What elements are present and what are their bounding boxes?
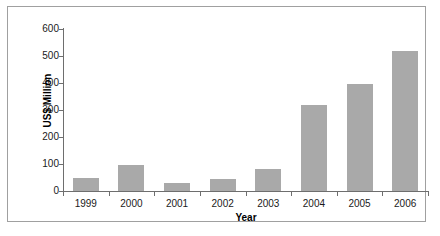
x-axis-title: Year (63, 212, 429, 223)
bar[interactable] (210, 179, 236, 191)
y-axis-tick-label: 0 (53, 185, 59, 196)
x-axis-tick-label: 1999 (63, 198, 109, 210)
bar[interactable] (118, 165, 144, 191)
bar[interactable] (73, 178, 99, 192)
x-axis-tick (200, 192, 201, 196)
x-axis-tick-label: 2002 (200, 198, 246, 210)
x-axis-tick-label: 2003 (246, 198, 292, 210)
x-axis-tick (246, 192, 247, 196)
y-axis-tick-label: 600 (42, 23, 59, 34)
x-axis-tick-label: 2006 (382, 198, 428, 210)
chart-figure: 6005004003002001000 19992000200120022003… (0, 0, 440, 236)
x-axis-tick (337, 192, 338, 196)
bar[interactable] (301, 105, 327, 191)
bar[interactable] (392, 51, 418, 191)
bar[interactable] (164, 183, 190, 191)
x-axis-tick-label: 2004 (291, 198, 337, 210)
x-axis-tick-label: 2001 (154, 198, 200, 210)
y-axis-title: US$ Million (42, 56, 53, 146)
x-axis-tick (109, 192, 110, 196)
x-axis-tick (382, 192, 383, 196)
x-axis-tick (291, 192, 292, 196)
x-axis-tick-label: 2005 (337, 198, 383, 210)
bar[interactable] (255, 169, 281, 191)
chart-frame: 6005004003002001000 19992000200120022003… (7, 6, 426, 222)
x-axis-tick (63, 192, 64, 196)
y-axis-tick-label: 100 (42, 158, 59, 169)
x-axis-tick (428, 192, 429, 196)
x-axis-tick-label: 2000 (109, 198, 155, 210)
x-axis-tick (154, 192, 155, 196)
bar[interactable] (347, 84, 373, 191)
plot-area (63, 29, 428, 191)
